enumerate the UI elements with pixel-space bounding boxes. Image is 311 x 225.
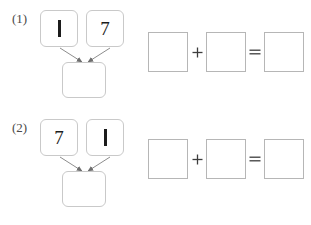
problem-1-right-addend-box: 7 (86, 10, 124, 47)
problem-1-left-addend-box (40, 10, 78, 47)
plus-icon (188, 47, 206, 58)
digit-one-glyph (58, 20, 61, 37)
digit-one-glyph (104, 129, 107, 146)
math-worksheet: (1) 7 (0, 0, 311, 225)
problem-1-eq-operand-1-box[interactable] (148, 32, 188, 72)
problem-2-eq-operand-1-box[interactable] (148, 139, 188, 179)
arrow-right-to-sum (88, 157, 110, 171)
equals-icon (246, 155, 264, 163)
number-bond-2-arrows (0, 107, 160, 225)
problem-2: (2) 7 (0, 107, 311, 225)
arrow-left-to-sum (60, 157, 82, 171)
arrow-right-to-sum (88, 48, 110, 62)
problem-2-right-addend-box (86, 119, 124, 156)
problem-2-eq-result-box[interactable] (264, 139, 304, 179)
arrow-left-to-sum (60, 48, 82, 62)
plus-icon (188, 154, 206, 165)
problem-1-equation (148, 32, 304, 72)
problem-1-sum-box[interactable] (62, 62, 106, 98)
equals-icon (246, 48, 264, 56)
problem-2-sum-box[interactable] (62, 171, 106, 207)
problem-1-eq-operand-2-box[interactable] (206, 32, 246, 72)
problem-2-left-addend-box: 7 (40, 119, 78, 156)
problem-2-eq-operand-2-box[interactable] (206, 139, 246, 179)
problem-2-equation (148, 139, 304, 179)
problem-1: (1) 7 (0, 0, 311, 108)
problem-1-eq-result-box[interactable] (264, 32, 304, 72)
